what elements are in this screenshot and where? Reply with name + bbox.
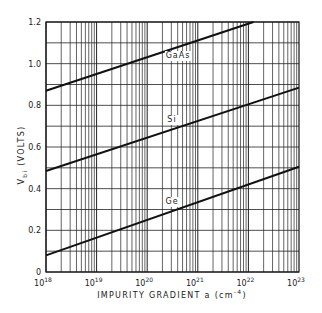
curve-label-gaas: GaAs bbox=[166, 51, 191, 60]
x-tick-labels: 101810191020102110221023 bbox=[34, 276, 305, 288]
x-tick-label: 1019 bbox=[85, 276, 103, 288]
y-tick-label: 0.8 bbox=[28, 101, 41, 110]
x-tick-label: 1023 bbox=[287, 276, 305, 288]
y-tick-label: 0.4 bbox=[28, 185, 41, 194]
x-tick-label: 1021 bbox=[186, 276, 204, 288]
curve-label-si: Si bbox=[167, 115, 176, 124]
vbi-vs-impurity-gradient-chart: GaAsSiGe 00.20.40.60.81.01.2 10181019102… bbox=[0, 0, 322, 313]
series-line-gaas bbox=[46, 22, 253, 91]
x-tick-label: 1018 bbox=[34, 276, 52, 288]
y-tick-label: 1.2 bbox=[28, 18, 41, 27]
y-tick-label: 0 bbox=[36, 268, 41, 277]
y-tick-label: 0.6 bbox=[28, 143, 41, 152]
y-tick-labels: 00.20.40.60.81.01.2 bbox=[28, 18, 41, 277]
x-tick-label: 1020 bbox=[135, 276, 153, 288]
x-tick-label: 1022 bbox=[236, 276, 254, 288]
series-line-si bbox=[46, 88, 299, 171]
y-tick-label: 1.0 bbox=[28, 60, 41, 69]
y-axis-title: Vbi (VOLTS) bbox=[17, 126, 28, 185]
series-line-ge bbox=[46, 167, 299, 256]
y-tick-label: 0.2 bbox=[28, 226, 41, 235]
curve-label-ge: Ge bbox=[165, 197, 178, 206]
x-axis-title: IMPURITY GRADIENT a (cm-4) bbox=[97, 288, 247, 300]
